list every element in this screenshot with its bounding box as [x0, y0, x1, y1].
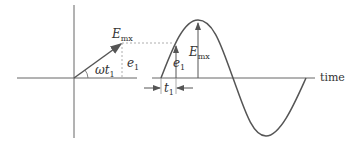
e1-wave-label: e1 [173, 57, 185, 72]
angle-arc [85, 70, 88, 78]
emx-wave-label: Emx [189, 46, 210, 61]
omega-t1-label: ωt1 [95, 64, 115, 79]
emx-phasor-label: Emx [112, 28, 133, 43]
e1-phasor-label: e1 [127, 57, 139, 72]
t1-label: t1 [164, 82, 174, 97]
time-label: time [320, 72, 345, 83]
phasor-diagram: Emx e1 ωt1 Emx e1 t1 time [0, 0, 349, 146]
diagram-graphics [0, 0, 349, 146]
